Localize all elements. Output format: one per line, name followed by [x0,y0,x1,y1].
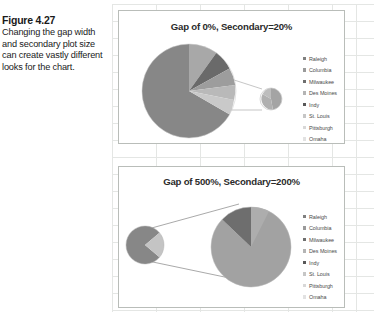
legend-label: Omaha [309,136,326,142]
grid-hline [112,157,374,158]
figure-caption: Figure 4.27 Changing the gap width and s… [2,14,110,73]
primary-pie-top [142,44,236,138]
legend-label: Milwaukee [309,79,334,85]
legend-item-des-moines[interactable]: Des Moines [303,88,337,99]
legend-swatch-icon [303,261,306,264]
legend-swatch-icon [303,126,306,129]
legend-item-st-louis[interactable]: St. Louis [303,269,337,280]
legend-swatch-icon [303,137,306,140]
legend-label: Pittsburgh [309,125,333,131]
legend-swatch-icon [303,57,306,60]
legend-swatch-icon [303,272,306,275]
legend-item-omaha[interactable]: Omaha [303,134,337,145]
legend-item-raleigh[interactable]: Raleigh [303,53,337,64]
legend-label: Milwaukee [309,237,334,243]
legend-label: Des Moines [309,90,337,96]
legend-swatch-icon [303,238,306,241]
chart-legend-top: RaleighColumbiaMilwaukeeDes MoinesIndySt… [303,53,337,144]
secondary-pie-bottom [211,207,291,287]
legend-label: Columbia [309,67,331,73]
legend-swatch-icon [303,226,306,229]
legend-label: St. Louis [309,271,330,277]
legend-swatch-icon [303,284,306,287]
legend-label: Indy [309,260,319,266]
legend-label: Raleigh [309,56,327,62]
legend-item-des-moines[interactable]: Des Moines [303,246,337,257]
grid-hline [112,310,374,311]
primary-pie-bottom [126,226,164,264]
legend-item-omaha[interactable]: Omaha [303,292,337,303]
figure-caption-text: Changing the gap width and secondary plo… [2,27,110,73]
legend-item-pittsburgh[interactable]: Pittsburgh [303,280,337,291]
grid-vline [356,4,357,312]
legend-item-st-louis[interactable]: St. Louis [303,111,337,122]
legend-item-milwaukee[interactable]: Milwaukee [303,234,337,245]
legend-label: Pittsburgh [309,283,333,289]
legend-label: Des Moines [309,248,337,254]
grid-vline [112,4,113,312]
chart-object-bottom[interactable]: Gap of 500%, Secondary=200% RaleighColum… [118,166,345,308]
legend-item-raleigh[interactable]: Raleigh [303,211,337,222]
legend-item-pittsburgh[interactable]: Pittsburgh [303,122,337,133]
pie-slice-st-louis [271,88,282,110]
legend-label: St. Louis [309,113,330,119]
legend-swatch-icon [303,103,306,106]
legend-label: Columbia [309,225,331,231]
legend-label: Omaha [309,294,326,300]
legend-swatch-icon [303,114,306,117]
legend-swatch-icon [303,80,306,83]
legend-swatch-icon [303,68,306,71]
legend-swatch-icon [303,215,306,218]
legend-label: Raleigh [309,214,327,220]
legend-item-indy[interactable]: Indy [303,257,337,268]
legend-label: Indy [309,102,319,108]
figure-label: Figure 4.27 [2,14,110,26]
legend-item-columbia[interactable]: Columbia [303,223,337,234]
figure-page: Figure 4.27 Changing the gap width and s… [0,0,376,314]
legend-swatch-icon [303,91,306,94]
legend-item-milwaukee[interactable]: Milwaukee [303,76,337,87]
chart-object-top[interactable]: Gap of 0%, Secondary=20% [118,10,345,144]
legend-item-indy[interactable]: Indy [303,99,337,110]
legend-swatch-icon [303,249,306,252]
legend-item-columbia[interactable]: Columbia [303,65,337,76]
legend-swatch-icon [303,295,306,298]
secondary-pie-top [260,88,282,110]
chart-legend-bottom: RaleighColumbiaMilwaukeeDes MoinesIndySt… [303,211,337,303]
grid-hline [112,4,374,5]
